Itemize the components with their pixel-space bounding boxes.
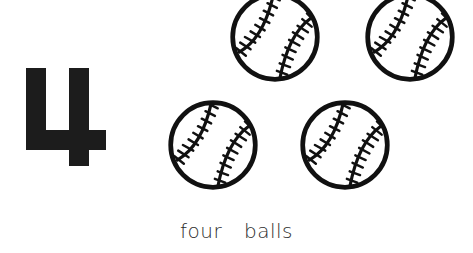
caption-label: four balls <box>0 219 473 243</box>
baseball-icon <box>363 0 457 86</box>
baseball-top-right <box>363 0 457 86</box>
baseball-icon <box>166 96 260 194</box>
counting-card: four balls <box>0 0 473 253</box>
numeral-four <box>14 56 118 168</box>
baseball-top-left <box>228 0 322 86</box>
baseball-icon <box>228 0 322 86</box>
baseball-bottom-right <box>298 96 392 194</box>
baseball-icon <box>298 96 392 194</box>
baseball-bottom-left <box>166 96 260 194</box>
digit-four-glyph <box>14 56 118 168</box>
